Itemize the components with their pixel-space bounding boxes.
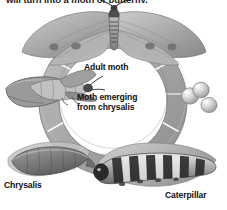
moth-life-cycle-figure: will turn into a moth or butterfly. Adul… <box>0 0 227 210</box>
top-caption-text: will turn into a moth or butterfly. <box>6 0 226 3</box>
adult-moth-illustration <box>22 0 206 65</box>
label-adult-moth: Adult moth <box>84 62 128 72</box>
chrysalis-illustration <box>8 142 96 176</box>
label-chrysalis: Chrysalis <box>4 180 42 190</box>
label-caterpillar: Caterpillar <box>165 190 206 200</box>
label-moth-emerging: Moth emerging from chrysalis <box>77 92 155 112</box>
caterpillar-illustration <box>94 143 216 186</box>
